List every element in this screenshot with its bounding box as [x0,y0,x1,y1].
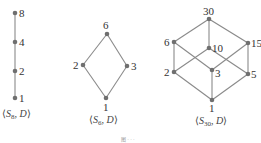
node-5 [246,72,251,77]
caption-s8: ⟨S8, D⟩ [2,108,31,121]
figure-caption: 图 · · · [121,137,135,143]
hasse-diagrams: 8 4 2 1 ⟨S8, D⟩ 6 2 3 1 ⟨S6, D⟩ [0,0,261,143]
label-2: 2 [73,59,79,71]
node-4 [13,40,18,45]
label-1: 1 [19,92,25,104]
node-3 [210,68,215,73]
node-1 [104,96,109,101]
label-6: 6 [103,19,109,31]
node-3 [125,64,130,69]
label-3: 3 [215,67,221,79]
node-15 [246,41,251,46]
edge-2-1 [83,65,106,98]
edge-30-15 [209,19,248,43]
node-8 [13,11,18,16]
label-1: 1 [103,101,109,113]
label-6: 6 [164,36,170,48]
label-1: 1 [209,102,215,114]
edge-6-3 [107,34,127,66]
node-6 [105,32,110,37]
hasse-diagram-s8: 8 4 2 1 ⟨S8, D⟩ [2,7,31,121]
edge-6-2 [83,34,107,65]
node-2 [81,63,86,68]
node-2 [172,70,177,75]
edge-2-1 [174,72,212,100]
caption-s30: ⟨S30, D⟩ [195,115,227,128]
label-10: 10 [212,42,224,54]
label-8: 8 [19,7,25,19]
node-10 [207,46,212,51]
label-3: 3 [131,60,137,72]
label-4: 4 [19,36,25,48]
node-1 [13,96,18,101]
edge-30-6 [174,19,209,42]
label-15: 15 [251,37,261,49]
label-5: 5 [251,68,257,80]
edge-6-3 [174,42,212,70]
edge-10-2 [174,48,209,72]
node-30 [207,17,212,22]
hasse-diagram-s30: 30 6 10 15 2 3 5 1 ⟨S30, D⟩ [164,5,261,128]
caption-s6: ⟨S6, D⟩ [89,114,118,127]
label-30: 30 [203,5,215,17]
hasse-diagram-s6: 6 2 3 1 ⟨S6, D⟩ [73,19,137,127]
edge-3-1 [106,66,127,98]
label-2: 2 [19,65,25,77]
node-6 [172,40,177,45]
label-2: 2 [164,66,170,78]
node-2 [13,69,18,74]
